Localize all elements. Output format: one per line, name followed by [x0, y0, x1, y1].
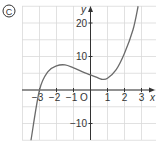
cubic-graph: C −3−2−11232010−10 y x O — [0, 0, 159, 150]
origin-label: O — [80, 92, 88, 103]
svg-text:20: 20 — [76, 18, 88, 29]
y-axis-arrow-icon — [88, 6, 93, 12]
svg-text:−1: −1 — [66, 92, 78, 103]
svg-text:3: 3 — [139, 92, 145, 103]
grid — [22, 6, 156, 140]
svg-text:10: 10 — [76, 51, 88, 62]
panel-label-text: C — [6, 7, 13, 17]
y-axis-label: y — [80, 4, 87, 15]
svg-text:−10: −10 — [70, 118, 87, 129]
x-axis-label: x — [149, 92, 156, 103]
svg-text:2: 2 — [122, 92, 128, 103]
svg-text:−2: −2 — [49, 92, 61, 103]
panel-label: C — [3, 5, 15, 17]
svg-text:1: 1 — [105, 92, 111, 103]
